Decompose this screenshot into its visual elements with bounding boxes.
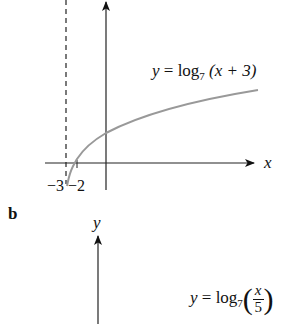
graph-canvas <box>0 0 288 324</box>
fraction: x5 <box>253 283 264 316</box>
tick-label-minus2: −2 <box>68 178 85 194</box>
x-axis-label: x <box>264 154 272 171</box>
eq-a-arg: (x + 3) <box>205 61 257 80</box>
log-curve-a <box>67 90 258 186</box>
open-paren: ( <box>243 282 253 315</box>
eq-b-lhs: y <box>190 288 198 307</box>
eq-b-op: = log <box>198 288 238 307</box>
eq-a-lhs: y <box>152 61 160 80</box>
frac-num: x <box>253 283 264 300</box>
eq-a-op: = log <box>160 61 200 80</box>
eq-b-base: 7 <box>237 297 243 309</box>
y-axis-label-b: y <box>93 214 101 231</box>
part-label-b: b <box>8 205 17 222</box>
tick-label-minus3: −3 <box>47 178 64 194</box>
frac-den: 5 <box>253 300 264 316</box>
close-paren: ) <box>264 282 274 315</box>
equation-a: y = log7 (x + 3) <box>152 62 256 79</box>
eq-a-base: 7 <box>199 70 205 82</box>
equation-b: y = log7(x5) <box>190 283 274 316</box>
